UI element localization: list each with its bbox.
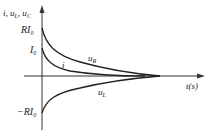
tick-I0: I0 bbox=[29, 44, 36, 56]
label-uL: uL bbox=[98, 87, 107, 98]
tick-RI0: RI0 bbox=[20, 24, 33, 36]
label-uR: uR bbox=[88, 53, 97, 64]
label-i: i bbox=[62, 60, 65, 70]
x-axis-arrow-icon bbox=[197, 74, 205, 79]
x-axis-label: t(s) bbox=[186, 81, 198, 91]
y-axis-label: i, uL, uC bbox=[3, 8, 32, 19]
tick-negRI0: −RI0 bbox=[17, 106, 36, 118]
y-axis-arrow-icon bbox=[40, 5, 45, 13]
curve-uR bbox=[42, 28, 160, 76]
rl-transient-diagram: i, uL, uC RI0 I0 −RI0 uR i uL t(s) bbox=[0, 0, 213, 139]
